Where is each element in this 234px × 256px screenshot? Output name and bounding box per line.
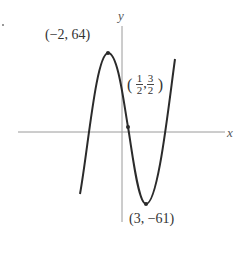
inflection-y-denominator: 2 [148,85,154,96]
inflection-x-denominator: 2 [137,85,143,96]
chart-plot [0,0,234,256]
inflection-point [126,125,130,129]
max-point [106,51,110,55]
inflection-y-fraction: 3 2 [147,73,155,96]
stray-dot [2,24,4,26]
min-point-label: (3, −61) [129,212,174,226]
x-axis-label: x [227,125,233,141]
inflection-close-paren: ) [158,76,163,93]
inflection-point-label: ( 1 2 , 3 2 ) [127,73,163,96]
y-axis-label: y [118,8,124,24]
inflection-open-paren: ( [127,76,132,93]
min-point [144,202,148,206]
max-point-label: (−2, 64) [45,28,90,42]
